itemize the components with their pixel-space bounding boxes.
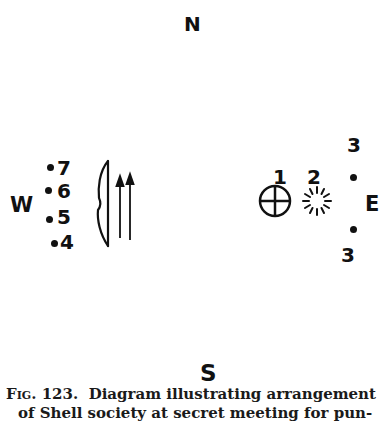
compass-south: S (200, 360, 217, 386)
member-dot-6 (45, 187, 52, 194)
member-label-7: 7 (57, 158, 71, 178)
bow-icon (98, 161, 108, 246)
member-label-3-top: 3 (347, 135, 361, 155)
caption-text-2: of Shell society at secret meeting for p… (18, 404, 372, 422)
member-label-6: 6 (57, 181, 71, 201)
member-dot-3-top (350, 174, 357, 181)
compass-north: N (184, 12, 201, 36)
member-label-4: 4 (60, 232, 74, 252)
figure-caption: Fig. 123. Diagram illustrating arrangeme… (6, 385, 376, 423)
member-dot-3-bottom (350, 226, 357, 233)
caption-line-1: Fig. 123. Diagram illustrating arrangeme… (6, 385, 376, 404)
member-dot-4 (51, 240, 58, 247)
member-dot-5 (46, 216, 53, 223)
circled-cross-icon (257, 183, 293, 219)
member-label-5: 5 (57, 207, 71, 227)
caption-line-2: of Shell society at secret meeting for p… (6, 404, 376, 423)
caption-text-1: Diagram illustrating arrangement (89, 385, 376, 403)
sun-burst-icon (300, 184, 334, 218)
compass-east: E (365, 192, 379, 216)
bow-and-arrows-icon (92, 158, 142, 250)
member-label-3-bottom: 3 (341, 245, 355, 265)
compass-west: W (10, 193, 33, 217)
member-dot-7 (47, 164, 54, 171)
figure-label: Fig. 123. (6, 385, 78, 403)
two-arrows-icon (117, 174, 134, 240)
